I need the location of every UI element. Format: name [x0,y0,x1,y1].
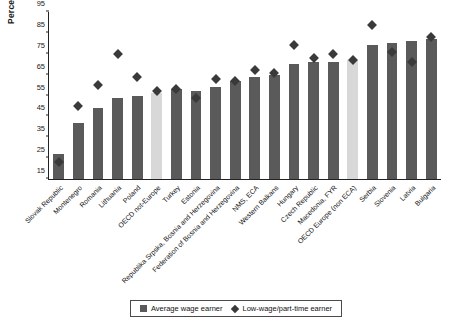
data-point-diamond [367,20,377,30]
bar [328,62,339,179]
bar [426,39,437,179]
y-tick-label: 55 [37,82,49,91]
bar [191,91,202,179]
x-axis-labels: Slovak RepublicMontenegroRomaniaLithuani… [48,182,441,297]
y-axis-label: Percentage [6,0,16,60]
plot-area: 152535455565758595 [48,12,441,180]
bar [289,64,300,179]
bar [230,81,241,179]
legend-label-lowwage: Low-wage/part-time earner [242,304,332,313]
bar [171,89,182,179]
legend-diamond-icon [231,304,239,312]
data-point-diamond [132,72,142,82]
bar [132,96,143,180]
y-tick-label: 75 [37,40,49,49]
data-point-diamond [113,49,123,59]
data-point-diamond [289,40,299,50]
y-axis-label-wrap: Percentage [4,20,18,180]
x-tick-label: Latvia [398,184,416,202]
bar [112,98,123,179]
data-point-diamond [93,80,103,90]
bar [269,75,280,179]
y-tick-label: 45 [37,103,49,112]
chart-container: Percentage 152535455565758595 Slovak Rep… [0,0,459,331]
bar [249,77,260,179]
bar [387,43,398,179]
bar [347,60,358,179]
bar [367,45,378,179]
y-tick-label: 35 [37,124,49,133]
data-point-diamond [211,74,221,84]
legend-label-average: Average wage earner [151,304,223,313]
legend-item-average: Average wage earner [140,304,223,313]
bar [308,62,319,179]
bar [93,108,104,179]
y-tick-label: 85 [37,19,49,28]
data-point-diamond [328,49,338,59]
x-tick-label: Turkey [161,184,181,204]
bar [210,87,221,179]
data-point-diamond [73,101,83,111]
bar [151,93,162,179]
chart-legend: Average wage earner Low-wage/part-time e… [130,300,342,317]
bar [73,123,84,179]
bars-layer [49,12,441,179]
y-tick-label: 25 [37,145,49,154]
legend-square-icon [140,305,147,312]
legend-item-lowwage: Low-wage/part-time earner [232,304,332,313]
data-point-diamond [250,66,260,76]
y-tick-label: 95 [37,0,49,8]
y-tick-label: 15 [37,166,49,175]
y-tick-label: 65 [37,61,49,70]
